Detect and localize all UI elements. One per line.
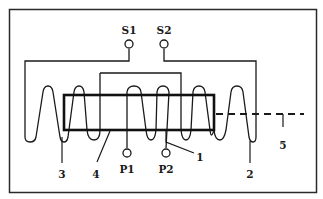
label-s2: S2 [157, 25, 172, 36]
label-p1: P1 [119, 164, 134, 175]
primary-coil [87, 73, 214, 148]
callout-3: 3 [58, 169, 65, 180]
terminal-p1-circle [123, 149, 131, 157]
terminal-p2-circle [162, 149, 170, 157]
callout-1: 1 [196, 152, 203, 163]
callout-2: 2 [246, 169, 253, 180]
terminal-s1-circle [125, 40, 133, 48]
callout-5: 5 [279, 140, 286, 151]
label-s1: S1 [122, 25, 137, 36]
terminal-s2-circle [160, 40, 168, 48]
callout-leaders [62, 131, 250, 163]
coil-diagram: S1 S2 P1 P2 1 2 3 4 5 [0, 0, 323, 199]
label-p2: P2 [158, 164, 173, 175]
callout-4: 4 [92, 169, 99, 180]
